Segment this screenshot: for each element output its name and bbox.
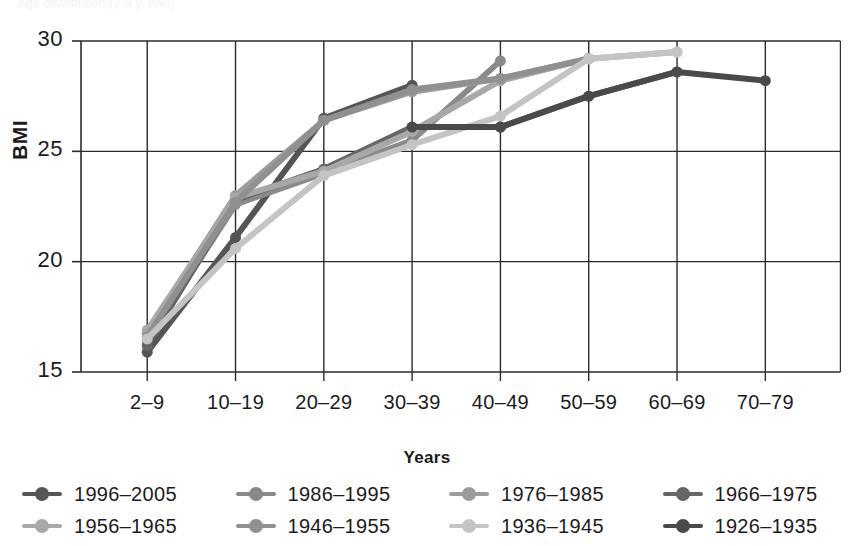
legend-item-1966–1975[interactable]: 1966–1975 <box>641 483 854 506</box>
legend-marker-icon <box>449 519 489 533</box>
chart-legend: 1996–20051986–19951976–19851966–19751956… <box>0 478 854 542</box>
legend-item-1926–1935[interactable]: 1926–1935 <box>641 515 854 538</box>
legend-label: 1926–1935 <box>715 515 818 538</box>
x-tick-label: 10–19 <box>193 391 279 414</box>
x-tick-label: 40–49 <box>457 391 543 414</box>
series-1996–2005 <box>142 80 418 358</box>
axis-lines <box>72 41 840 381</box>
legend-label: 1946–1955 <box>288 515 391 538</box>
legend-item-1976–1985[interactable]: 1976–1985 <box>427 483 641 506</box>
x-tick-label: 70–79 <box>722 391 808 414</box>
legend-label: 1996–2005 <box>74 483 177 506</box>
legend-marker-icon <box>449 487 489 501</box>
x-tick-label: 30–39 <box>369 391 455 414</box>
y-tick-label: 15 <box>17 357 63 383</box>
legend-marker-icon <box>22 519 62 533</box>
x-tick-label: 2–9 <box>104 391 190 414</box>
gridlines <box>81 41 840 372</box>
legend-label: 1936–1945 <box>501 515 604 538</box>
legend-marker-icon <box>663 487 703 501</box>
plot-area: BMI 30252015 2–910–1920–2930–3940–4950–5… <box>0 0 854 546</box>
legend-marker-icon <box>236 519 276 533</box>
legend-marker-icon <box>22 487 62 501</box>
y-tick-label: 30 <box>17 26 63 52</box>
legend-label: 1956–1965 <box>74 515 177 538</box>
legend-item-1996–2005[interactable]: 1996–2005 <box>0 483 214 506</box>
x-axis-title: Years <box>0 448 854 468</box>
y-tick-label: 25 <box>17 136 63 162</box>
legend-item-1956–1965[interactable]: 1956–1965 <box>0 515 214 538</box>
x-tick-label: 20–29 <box>281 391 367 414</box>
legend-label: 1966–1975 <box>715 483 818 506</box>
x-tick-label: 60–69 <box>634 391 720 414</box>
legend-label: 1976–1985 <box>501 483 604 506</box>
y-tick-label: 20 <box>17 247 63 273</box>
legend-label: 1986–1995 <box>288 483 391 506</box>
legend-item-1986–1995[interactable]: 1986–1995 <box>214 483 428 506</box>
legend-marker-icon <box>663 519 703 533</box>
legend-marker-icon <box>236 487 276 501</box>
x-tick-label: 50–59 <box>546 391 632 414</box>
bmi-by-age-chart-figure: Age distribution (2-9 y, BMI) BMI 302520… <box>0 0 854 546</box>
legend-item-1946–1955[interactable]: 1946–1955 <box>214 515 428 538</box>
legend-item-1936–1945[interactable]: 1936–1945 <box>427 515 641 538</box>
